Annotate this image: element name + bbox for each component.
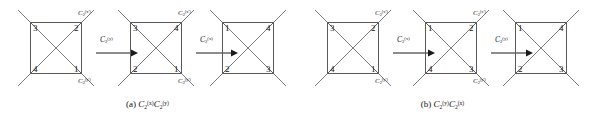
axis-label-top-right-sup: (x') bbox=[382, 9, 388, 14]
panel-a-stage-1: 3 2 4 1 C2(x') C2(y') bbox=[12, 8, 100, 88]
vertex-label-bottom-right: 1 bbox=[174, 65, 179, 74]
vertex-label-top-right: 4 bbox=[174, 24, 179, 33]
axis-label-bottom-right: C2(y') bbox=[178, 76, 191, 87]
axis-label-top-right: C2(x') bbox=[473, 8, 486, 19]
vertex-label-top-right: 4 bbox=[266, 24, 271, 33]
panel-b-caption-prefix: (b) bbox=[421, 99, 432, 109]
axis-label-bottom-right-sup: (y') bbox=[185, 77, 191, 82]
vertex-label-top-right: 2 bbox=[469, 24, 474, 33]
vertex-label-bottom-right: 3 bbox=[266, 65, 271, 74]
vertex-label-bottom-right: 1 bbox=[371, 65, 376, 74]
vertex-label-bottom-left: 2 bbox=[133, 65, 138, 74]
axis-label-top-right: C2(x') bbox=[178, 8, 191, 19]
axis-label-bottom-right-sup: (y') bbox=[480, 77, 486, 82]
panel-b-stage-3: 1 4 2 3 bbox=[497, 8, 585, 88]
panel-a-stage-2: 3 4 2 1 C2(x') C2(y') bbox=[112, 8, 200, 88]
vertex-label-bottom-right: 3 bbox=[469, 65, 474, 74]
vertex-label-top-right: 4 bbox=[559, 24, 564, 33]
axis-label-top-right: C2(x') bbox=[375, 8, 388, 19]
figure-root: 3 2 4 1 C2(x') C2(y') C2(y) bbox=[0, 0, 590, 117]
vertex-label-top-left: 1 bbox=[428, 24, 433, 33]
panel-a-caption-sup2: (y) bbox=[162, 100, 169, 106]
panel-b-stage-2: 1 2 4 3 C2(x') C2(y') bbox=[407, 8, 495, 88]
vertex-label-top-left: 1 bbox=[518, 24, 523, 33]
vertex-label-top-right: 2 bbox=[371, 24, 376, 33]
axis-label-bottom-right: C2(y') bbox=[375, 76, 388, 87]
vertex-label-bottom-right: 1 bbox=[74, 65, 79, 74]
vertex-label-top-left: 3 bbox=[330, 24, 335, 33]
panel-b: 3 2 4 1 C2(x') C2(y') C2(x) bbox=[295, 0, 590, 117]
vertex-label-bottom-left: 4 bbox=[428, 65, 433, 74]
axis-label-top-right-sup: (x') bbox=[185, 9, 191, 14]
panel-a-caption: (a) C2(x)C2(y) bbox=[0, 98, 295, 113]
axis-label-bottom-right: C2(y') bbox=[473, 76, 486, 87]
axis-label-bottom-right: C2(y') bbox=[78, 76, 91, 87]
vertex-label-top-left: 3 bbox=[33, 24, 38, 33]
vertex-label-bottom-left: 4 bbox=[330, 65, 335, 74]
panel-b-caption: (b) C2(y)C2(x) bbox=[295, 98, 590, 113]
panel-b-caption-sup2: (x) bbox=[458, 100, 465, 106]
axis-label-top-right-sup: (x') bbox=[85, 9, 91, 14]
axis-label-bottom-right-sup: (y') bbox=[85, 77, 91, 82]
arrow-1-label: C2(y) bbox=[100, 34, 113, 46]
vertex-label-bottom-left: 4 bbox=[33, 65, 38, 74]
panel-a-caption-prefix: (a) bbox=[126, 99, 136, 109]
vertex-label-bottom-left: 2 bbox=[225, 65, 230, 74]
vertex-label-bottom-right: 3 bbox=[559, 65, 564, 74]
vertex-label-top-left: 1 bbox=[225, 24, 230, 33]
vertex-label-top-left: 3 bbox=[133, 24, 138, 33]
panel-b-stage-1: 3 2 4 1 C2(x') C2(y') bbox=[309, 8, 397, 88]
axis-label-top-right: C2(x') bbox=[78, 8, 91, 19]
panel-a: 3 2 4 1 C2(x') C2(y') C2(y) bbox=[0, 0, 295, 117]
vertex-label-top-right: 2 bbox=[74, 24, 79, 33]
panel-a-stage-3: 1 4 2 3 bbox=[204, 8, 292, 88]
axis-label-bottom-right-sup: (y') bbox=[382, 77, 388, 82]
axis-label-top-right-sup: (x') bbox=[480, 9, 486, 14]
vertex-label-bottom-left: 2 bbox=[518, 65, 523, 74]
